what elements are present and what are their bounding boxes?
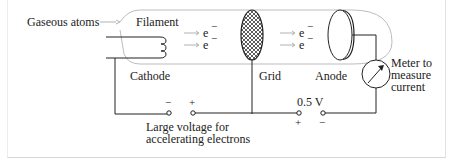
gas-inlet-arrow (100, 20, 120, 24)
polarity-plus: + (295, 116, 301, 128)
filament-label: Filament (136, 15, 179, 29)
electron-charge: − (211, 32, 217, 44)
terminal (167, 111, 171, 115)
electron-arrows-left (184, 31, 199, 47)
electron-charge: − (307, 20, 313, 32)
polarity-minus: − (165, 96, 171, 108)
electron-charge: − (307, 32, 313, 44)
grid (241, 10, 263, 60)
cathode-label: Cathode (130, 69, 170, 83)
gaseous-atoms-label: Gaseous atoms (27, 15, 100, 29)
meter-label-3: current (391, 80, 426, 94)
filament (106, 37, 166, 58)
electron-charge: − (211, 20, 217, 32)
small-voltage-label: 0.5 V (297, 95, 324, 109)
franck-hertz-diagram: e − e − e − e − − + + − Gaseous atoms Fi… (0, 0, 456, 164)
terminal (321, 111, 325, 115)
polarity-minus: − (319, 116, 325, 128)
ammeter (362, 60, 390, 88)
anode (328, 10, 354, 60)
electron-label: e (203, 38, 208, 52)
grid-label: Grid (259, 69, 281, 83)
polarity-plus: + (189, 96, 195, 108)
terminal (297, 111, 301, 115)
terminal (191, 111, 195, 115)
anode-label: Anode (315, 69, 347, 83)
electron-label: e (299, 38, 304, 52)
electron-arrows-right (280, 31, 295, 47)
large-voltage-label-2: accelerating electrons (146, 132, 251, 146)
